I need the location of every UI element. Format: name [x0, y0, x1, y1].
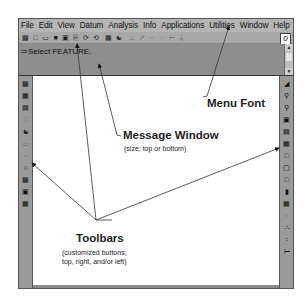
print-icon[interactable]: ⎘ [72, 34, 79, 41]
right-toolbar: ◢ ⚲ ⚲ ▣ ▤ ▦ □ ▢ □ ▮ ▦ ▫ ∴ ∶ ⊢ [279, 76, 293, 288]
left-tool-3-icon[interactable]: ▤ [22, 104, 30, 112]
application-window: File Edit View Datum Analysis Info Appli… [18, 18, 294, 289]
feature-icon[interactable]: ▦ [105, 34, 112, 41]
datum-point-icon[interactable]: ∴ [158, 34, 165, 41]
left-tool-11-icon[interactable]: ▦ [22, 200, 30, 208]
datum-axes-icon[interactable]: ∴ [283, 224, 291, 232]
toolbars-sublabel-1: (customized buttons; [62, 249, 127, 256]
menu-font-label: Menu Font [207, 97, 265, 109]
coord-systems-icon[interactable]: ⊢ [283, 248, 291, 256]
message-window-label: Message Window [123, 129, 219, 141]
left-tool-7-icon[interactable]: ▫ [22, 152, 30, 160]
coord-sys-icon[interactable]: ⊢ [168, 34, 175, 41]
save-icon[interactable]: ■ [52, 34, 59, 41]
undo-icon[interactable]: ⟲ [92, 34, 99, 41]
shade-icon[interactable]: ▮ [283, 188, 291, 196]
layers-icon[interactable]: ▦ [283, 200, 291, 208]
menu-utilities[interactable]: Utilities [209, 21, 235, 30]
datum-points-icon[interactable]: ∶ [283, 236, 291, 244]
zoom-in-icon[interactable]: ⚲ [283, 92, 291, 100]
left-tool-6-icon[interactable]: ▭ [22, 140, 30, 148]
menu-edit[interactable]: Edit [39, 21, 53, 30]
refit-icon[interactable]: ▣ [283, 116, 291, 124]
message-text: ⇨Select FEATURE. [21, 47, 91, 56]
scroll-down-arrow-icon[interactable]: ▼ [285, 68, 293, 75]
zoom-out-icon[interactable]: ⚲ [283, 104, 291, 112]
menu-file[interactable]: File [21, 21, 34, 30]
folder-icon[interactable]: ▭ [42, 34, 49, 41]
left-tool-1-icon[interactable]: ▩ [22, 80, 30, 88]
model-tree-icon[interactable]: ☯ [115, 34, 122, 41]
datum-curve-icon[interactable]: ∼ [148, 34, 155, 41]
menu-analysis[interactable]: Analysis [108, 21, 138, 30]
open-icon[interactable]: □ [32, 34, 39, 41]
wireframe-icon[interactable]: □ [283, 152, 291, 160]
datum-plane-icon[interactable]: ⊥ [128, 34, 135, 41]
left-tool-9-icon[interactable]: ▩ [22, 176, 30, 184]
orient-icon[interactable]: ▤ [283, 128, 291, 136]
message-window-sublabel: (size; top or bottom) [124, 145, 186, 152]
menu-applications[interactable]: Applications [161, 21, 204, 30]
menu-help[interactable]: Help [273, 21, 289, 30]
toolbars-sublabel-2: top, right, and/or left) [62, 258, 127, 265]
no-hidden-icon[interactable]: □ [283, 176, 291, 184]
regen-icon[interactable]: ⟳ [82, 34, 89, 41]
menu-datum[interactable]: Datum [80, 21, 104, 30]
window-bottom-border [33, 285, 279, 288]
top-toolbar: ▩ □ ▭ ■ ▣ ⎘ ⟳ ⟲ ▦ ☯ ⊥ ➚ ∼ ∴ ⊢ ⏚ 0 [19, 32, 293, 44]
menu-bar: File Edit View Datum Analysis Info Appli… [19, 19, 293, 32]
new-icon[interactable]: ▩ [22, 34, 29, 41]
datum-axis-icon[interactable]: ➚ [138, 34, 145, 41]
menu-window[interactable]: Window [240, 21, 269, 30]
left-tool-4-icon[interactable]: □ [22, 116, 30, 124]
scroll-thumb[interactable] [286, 53, 292, 61]
spin-center-icon[interactable]: ⏚ [178, 34, 185, 41]
hidden-line-icon[interactable]: ▢ [283, 164, 291, 172]
menu-view[interactable]: View [58, 21, 75, 30]
datum-planes-icon[interactable]: ▫ [283, 212, 291, 220]
message-window: ⇨Select FEATURE. ▲ ▼ [19, 44, 293, 76]
toolbars-label: Toolbars [76, 232, 124, 244]
menu-info[interactable]: Info [143, 21, 156, 30]
left-tool-10-icon[interactable]: ▣ [22, 188, 30, 196]
save-as-icon[interactable]: ▣ [62, 34, 69, 41]
message-scrollbar[interactable]: ▲ ▼ [284, 44, 293, 75]
left-toolbar: ▩ ▦ ▤ □ ☯ ▭ ▫ ○ ▩ ▣ ▦ [19, 76, 33, 288]
left-tool-8-icon[interactable]: ○ [22, 164, 30, 172]
scroll-up-arrow-icon[interactable]: ▲ [285, 44, 293, 51]
saved-views-icon[interactable]: ▦ [283, 140, 291, 148]
left-tool-2-icon[interactable]: ▦ [22, 92, 30, 100]
left-tool-5-icon[interactable]: ☯ [22, 128, 30, 136]
repaint-icon[interactable]: ◢ [283, 80, 291, 88]
